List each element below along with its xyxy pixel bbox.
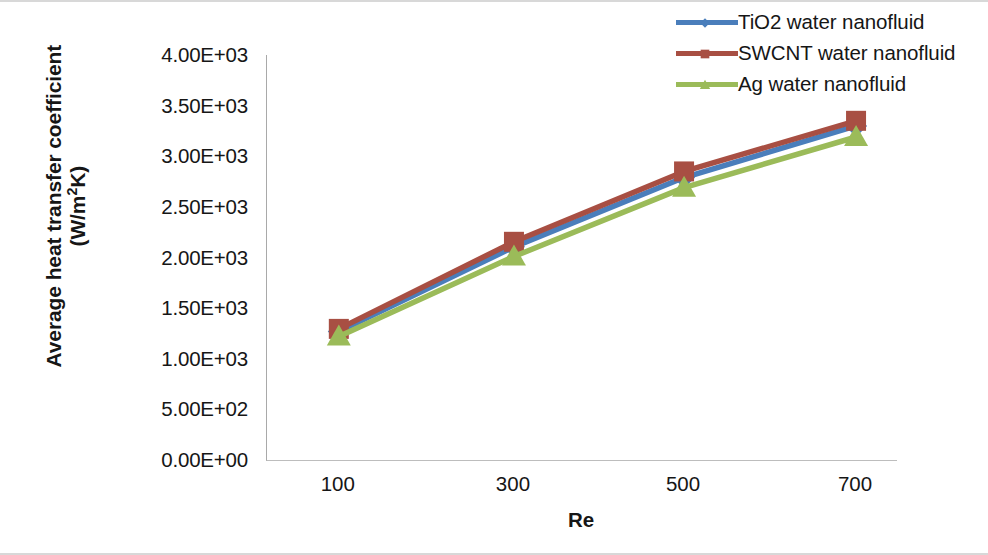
legend-entry[interactable]: TiO2 water nanofluid xyxy=(676,6,982,37)
series-diamond xyxy=(328,115,867,343)
page-rule-top xyxy=(0,0,988,2)
legend-marker-diamond-icon xyxy=(695,13,715,33)
legend-entry[interactable]: Ag water nanofluid xyxy=(676,68,982,99)
data-point-marker xyxy=(701,49,710,58)
data-point-marker xyxy=(700,79,710,88)
legend-marker-triangle-icon xyxy=(695,75,715,95)
y-axis-tick-label: 2.00E+03 xyxy=(128,246,248,270)
y-axis-title: Average heat transfer coefficient (W/m2K… xyxy=(42,0,90,416)
legend-entry[interactable]: SWCNT water nanofluid xyxy=(676,37,982,68)
y-axis-units-suffix: K) xyxy=(66,166,89,188)
x-axis-tick-label: 300 xyxy=(496,472,530,496)
y-axis-tick-label: 2.50E+03 xyxy=(128,195,248,219)
x-axis-title: Re xyxy=(266,508,896,532)
legend-label: TiO2 water nanofluid xyxy=(738,10,924,34)
legend-label: Ag water nanofluid xyxy=(738,72,906,96)
plot-area xyxy=(266,55,897,461)
y-axis-units-prefix: (W/m xyxy=(66,196,89,247)
legend-swatch xyxy=(676,71,738,97)
y-axis-tick-label: 3.00E+03 xyxy=(128,144,248,168)
data-point-marker xyxy=(700,18,710,28)
legend-marker-square-icon xyxy=(695,44,715,64)
y-axis-title-line1: Average heat transfer coefficient xyxy=(42,45,65,368)
y-axis-tick-labels: 4.00E+033.50E+033.00E+032.50E+032.00E+03… xyxy=(128,40,248,480)
chart-legend: TiO2 water nanofluidSWCNT water nanoflui… xyxy=(676,6,982,99)
y-axis-tick-label: 1.00E+03 xyxy=(128,347,248,371)
series-canvas xyxy=(267,55,897,460)
y-axis-title-units: (W/m2K) xyxy=(66,0,90,416)
legend-swatch xyxy=(676,40,738,66)
chart-figure: Average heat transfer coefficient (W/m2K… xyxy=(0,0,988,555)
legend-swatch xyxy=(676,9,738,35)
x-axis-tick-label: 500 xyxy=(666,472,700,496)
x-axis-tick-label: 100 xyxy=(321,472,355,496)
series-line xyxy=(339,137,856,336)
series-triangle xyxy=(327,125,868,345)
y-axis-tick-label: 4.00E+03 xyxy=(128,43,248,67)
legend-label: SWCNT water nanofluid xyxy=(738,41,955,65)
x-axis-tick-label: 700 xyxy=(838,472,872,496)
y-axis-tick-label: 1.50E+03 xyxy=(128,296,248,320)
x-axis-tick-labels: 100300500700 xyxy=(266,472,896,502)
y-axis-tick-label: 0.00E+00 xyxy=(128,448,248,472)
y-axis-tick-label: 5.00E+02 xyxy=(128,397,248,421)
y-axis-units-exponent: 2 xyxy=(64,188,80,196)
y-axis-tick-label: 3.50E+03 xyxy=(128,94,248,118)
